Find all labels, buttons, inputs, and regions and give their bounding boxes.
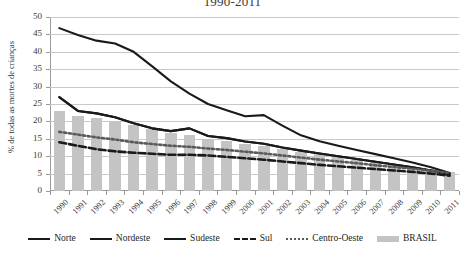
- y-tick-label: 15: [8, 133, 42, 143]
- line-series-layer: [50, 17, 459, 191]
- x-tick-mark: [255, 191, 256, 195]
- legend-label: Sudeste: [190, 233, 220, 243]
- y-tick-label: 25: [8, 98, 42, 108]
- x-tick-mark: [236, 191, 237, 195]
- legend-swatch-icon: [286, 234, 308, 243]
- x-tick-mark: [180, 191, 181, 195]
- legend-label: BRASIL: [403, 233, 437, 243]
- x-tick-mark: [50, 191, 51, 195]
- x-tick-mark: [329, 191, 330, 195]
- x-tick-mark: [162, 191, 163, 195]
- legend-item-nordeste[interactable]: Nordeste: [90, 233, 150, 243]
- series-line-norte: [59, 97, 449, 174]
- y-tick-label: 35: [8, 63, 42, 73]
- legend-swatch-icon: [234, 234, 256, 243]
- chart-title: 1990-2011: [0, 0, 465, 10]
- x-tick-mark: [366, 191, 367, 195]
- legend-label: Nordeste: [116, 233, 150, 243]
- y-tick-label: 5: [8, 168, 42, 178]
- series-line-sul: [59, 142, 449, 175]
- x-tick-mark: [403, 191, 404, 195]
- x-tick-mark: [124, 191, 125, 195]
- y-tick-label: 20: [8, 115, 42, 125]
- x-tick-mark: [106, 191, 107, 195]
- x-tick-mark: [273, 191, 274, 195]
- legend-swatch-icon: [164, 234, 186, 243]
- x-tick-mark: [422, 191, 423, 195]
- x-tick-mark: [217, 191, 218, 195]
- chart-legend: NorteNordesteSudesteSulCentro-OesteBRASI…: [0, 233, 465, 243]
- x-tick-mark: [199, 191, 200, 195]
- x-tick-mark: [440, 191, 441, 195]
- legend-swatch-icon: [28, 234, 50, 243]
- x-tick-mark: [143, 191, 144, 195]
- legend-swatch-icon: [90, 234, 112, 243]
- y-tick-label: 45: [8, 28, 42, 38]
- x-tick-mark: [292, 191, 293, 195]
- x-tick-mark: [87, 191, 88, 195]
- legend-label: Norte: [54, 233, 76, 243]
- series-line-nordeste: [59, 97, 449, 175]
- legend-item-sul[interactable]: Sul: [234, 233, 273, 243]
- y-tick-label: 0: [8, 185, 42, 195]
- x-tick-mark: [69, 191, 70, 195]
- legend-item-norte[interactable]: Norte: [28, 233, 76, 243]
- x-tick-mark: [385, 191, 386, 195]
- plot-area: [50, 17, 459, 191]
- y-tick-label: 40: [8, 46, 42, 56]
- legend-swatch-icon: [377, 234, 399, 243]
- x-tick-mark: [310, 191, 311, 195]
- legend-item-centro-oeste[interactable]: Centro-Oeste: [286, 233, 363, 243]
- y-tick-label: 30: [8, 81, 42, 91]
- y-tick-label: 10: [8, 150, 42, 160]
- legend-label: Sul: [260, 233, 273, 243]
- legend-label: Centro-Oeste: [312, 233, 363, 243]
- legend-item-sudeste[interactable]: Sudeste: [164, 233, 220, 243]
- legend-item-brasil[interactable]: BRASIL: [377, 233, 437, 243]
- chart-root: 1990-2011 % de todas as mortes de crianç…: [0, 0, 465, 258]
- y-tick-label: 50: [8, 11, 42, 21]
- x-tick-mark: [459, 191, 460, 195]
- x-tick-mark: [347, 191, 348, 195]
